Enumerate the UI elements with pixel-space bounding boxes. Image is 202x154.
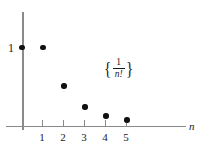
- fraction: 1 n!: [113, 58, 125, 80]
- x-tick-label-3: 3: [77, 131, 91, 143]
- x-tick-mark-3: [84, 120, 85, 126]
- x-tick-label-2: 2: [56, 131, 70, 143]
- y-axis: [22, 12, 24, 130]
- x-tick-label-4: 4: [98, 131, 112, 143]
- x-tick-mark-2: [63, 120, 64, 126]
- point-n5: [124, 117, 129, 122]
- x-tick-mark-4: [105, 120, 106, 126]
- point-n0: [19, 45, 24, 50]
- point-n1: [40, 45, 45, 50]
- y-axis-tick-label-1: 1: [8, 41, 14, 56]
- x-axis-label: n: [189, 120, 195, 132]
- point-n3: [82, 104, 87, 109]
- fraction-numerator: 1: [114, 58, 123, 68]
- x-tick-label-5: 5: [119, 131, 133, 143]
- close-brace: }: [126, 59, 133, 78]
- scatter-plot-figure: 1 1 2 3 4 5 { 1 n! } n: [0, 0, 202, 154]
- open-brace: {: [104, 59, 111, 78]
- point-n4: [103, 113, 108, 118]
- point-n2: [61, 83, 66, 88]
- series-annotation: { 1 n! }: [103, 58, 134, 80]
- fraction-denominator: n!: [113, 70, 125, 80]
- x-tick-label-1: 1: [35, 131, 49, 143]
- x-axis: [6, 126, 186, 128]
- x-tick-mark-1: [42, 120, 43, 126]
